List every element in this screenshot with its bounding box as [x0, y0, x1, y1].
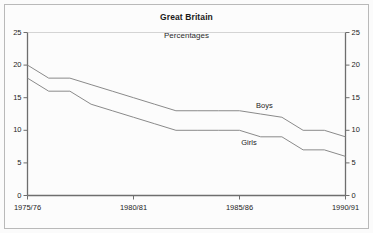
series-line-girls: [28, 78, 346, 156]
chart-plot-area: [0, 0, 373, 233]
series-annotation-boys: Boys: [256, 101, 273, 110]
y-axis-tick-label-left: 5: [4, 158, 22, 167]
y-axis-tick-label-left: 25: [4, 28, 22, 37]
x-axis-tick-label: 1985/86: [217, 203, 263, 212]
y-axis-tick-label-right: 25: [352, 28, 370, 37]
y-axis-tick-label-right: 10: [352, 125, 370, 134]
y-axis-tick-label-left: 20: [4, 60, 22, 69]
y-axis-tick-label-right: 20: [352, 60, 370, 69]
y-axis-tick-label-left: 0: [4, 191, 22, 200]
chart-series-lines: [28, 65, 346, 156]
x-axis-tick-label: 1990/91: [323, 203, 369, 212]
y-axis-tick-label-right: 0: [352, 191, 370, 200]
x-axis-tick-label: 1980/81: [111, 203, 157, 212]
series-line-boys: [28, 65, 346, 137]
chart-figure: Great Britain Percentages 00551010151520…: [0, 0, 373, 233]
y-axis-tick-label-left: 15: [4, 93, 22, 102]
chart-tick-marks: [24, 33, 350, 200]
y-axis-tick-label-right: 5: [352, 158, 370, 167]
chart-axes: [28, 33, 346, 196]
y-axis-tick-label-right: 15: [352, 93, 370, 102]
series-annotation-girls: Girls: [241, 138, 256, 147]
y-axis-tick-label-left: 10: [4, 125, 22, 134]
x-axis-tick-label: 1975/76: [5, 203, 51, 212]
